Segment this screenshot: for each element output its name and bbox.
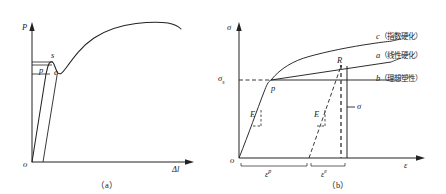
panel-b-modulus-label-1: E	[250, 110, 255, 119]
panel-b-svg	[223, 0, 446, 194]
strain-elastic-superscript: e	[324, 168, 327, 174]
legend-a-name: （线性硬化）	[380, 51, 422, 60]
panel-b-yield-point-label: p	[271, 84, 275, 93]
panel-a-svg	[0, 0, 223, 194]
panel-b-x-axis	[239, 155, 425, 160]
chart-panel-b: σ ε o σs p R E E σ εp εe c（指数硬化） a（线性硬化）…	[223, 0, 446, 194]
panel-a-point-label-e: e	[54, 68, 58, 77]
chart-panel-a: P Δl o p s e （a）	[0, 0, 223, 194]
legend-c-name: （指数硬化）	[380, 32, 422, 41]
panel-b-curve-c	[271, 41, 391, 80]
panel-a-unload-line	[43, 73, 58, 163]
panel-b-x-axis-label: ε	[404, 161, 407, 170]
yield-stress-subscript: s	[222, 79, 224, 85]
panel-b-legend-b: b（理想塑性）	[376, 74, 422, 83]
panel-b-caption: （b）	[327, 178, 349, 190]
strain-plastic-superscript: p	[268, 168, 271, 174]
panel-b-stress-bracket-label: σ	[357, 102, 361, 111]
panel-b-yield-stress-label: σs	[218, 74, 225, 85]
panel-b-end-point-label: R	[337, 56, 342, 65]
panel-b-origin-label: o	[230, 156, 234, 165]
panel-a-caption: （a）	[96, 178, 118, 190]
panel-a-point-label-p: p	[39, 66, 43, 75]
panel-b-strain-elastic-label: εe	[321, 168, 327, 178]
panel-b-y-axis-label: σ	[227, 23, 231, 32]
panel-b-legend-a: a（线性硬化）	[376, 51, 422, 60]
figure-container: P Δl o p s e （a）	[0, 0, 446, 194]
panel-b-legend-c: c（指数硬化）	[376, 32, 422, 41]
panel-a-x-axis-label: Δl	[172, 165, 179, 174]
panel-a-point-label-s: s	[51, 51, 54, 60]
panel-a-x-axis	[32, 159, 194, 164]
panel-a-origin-label: o	[23, 160, 27, 169]
panel-b-y-axis	[236, 22, 241, 158]
panel-a-y-axis-label: P	[22, 23, 27, 32]
panel-b-strain-braces	[241, 163, 345, 166]
panel-b-modulus-label-2: E	[314, 110, 319, 119]
panel-b-point-R	[340, 65, 342, 67]
panel-a-y-axis	[29, 22, 34, 162]
panel-b-strain-plastic-label: εp	[265, 168, 271, 178]
panel-b-curve-b	[239, 80, 391, 158]
legend-b-name: （理想塑性）	[380, 74, 422, 83]
